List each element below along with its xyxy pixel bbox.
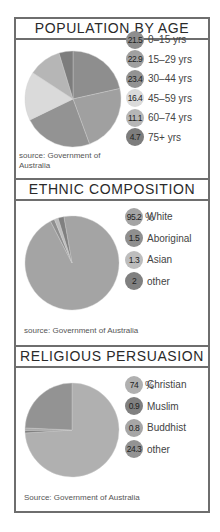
legend-value-badge: 22.9 <box>126 50 144 68</box>
religion-source: Source: Government of Australia <box>24 493 140 503</box>
legend-item: 1.5Aboriginal <box>125 229 191 248</box>
infographic-frame: POPULATION BY AGE % 21.50–15 yrs22.915–2… <box>14 17 210 513</box>
legend-value-badge: 11.1 <box>126 109 144 127</box>
legend-label: 75+ yrs <box>148 132 181 143</box>
legend-item: 24.3other <box>125 440 170 459</box>
legend-label: Christian <box>147 379 186 390</box>
legend-item: 0.8Buddhist <box>125 418 186 437</box>
religious-persuasion-title: RELIGIOUS PERSUASION <box>16 347 208 368</box>
legend-item: 22.915–29 yrs <box>126 50 192 69</box>
legend-value-badge: 24.3 <box>125 440 143 458</box>
legend-value-badge: 1.3 <box>125 251 143 269</box>
legend-label: other <box>147 276 170 287</box>
ethnic-composition-title: ETHNIC COMPOSITION <box>16 180 208 201</box>
pie-slice <box>25 383 72 430</box>
legend-item: 1.3Asian <box>125 250 172 269</box>
legend-value-badge: 21.5 <box>126 31 144 49</box>
legend-label: other <box>147 444 170 455</box>
legend-value-badge: 4.7 <box>126 128 144 146</box>
legend-label: 30–44 yrs <box>148 73 192 84</box>
legend-label: Aboriginal <box>147 233 191 244</box>
legend-item: 2other <box>125 272 170 291</box>
population-pie-chart <box>24 50 122 148</box>
legend-label: Muslim <box>147 401 179 412</box>
legend-value-badge: 95.2 <box>125 208 143 226</box>
legend-item: 74Christian <box>125 375 186 394</box>
legend-item: 21.50–15 yrs <box>126 30 186 49</box>
legend-item: 95.2White <box>125 207 173 226</box>
legend-item: 11.160–74 yrs <box>126 108 192 127</box>
population-source: source: Government of Australia <box>19 151 100 171</box>
legend-value-badge: 1.5 <box>125 229 143 247</box>
legend-label: 15–29 yrs <box>148 54 192 65</box>
legend-label: Asian <box>147 254 172 265</box>
legend-value-badge: 74 <box>125 376 143 394</box>
legend-value-badge: 16.4 <box>126 89 144 107</box>
religion-pie-chart <box>24 382 120 478</box>
legend-label: 0–15 yrs <box>148 34 186 45</box>
legend-value-badge: 23.4 <box>126 70 144 88</box>
legend-label: 60–74 yrs <box>148 112 192 123</box>
source-line-1: source: Government of <box>19 151 100 161</box>
legend-label: White <box>147 211 173 222</box>
ethnic-pie-chart <box>24 215 120 311</box>
legend-item: 0.9Muslim <box>125 397 179 416</box>
legend-label: 45–59 yrs <box>148 93 192 104</box>
legend-item: 16.445–59 yrs <box>126 89 192 108</box>
legend-value-badge: 0.9 <box>125 397 143 415</box>
source-line-2: Australia <box>19 161 100 171</box>
ethnic-source: source: Government of Australia <box>24 326 138 336</box>
legend-value-badge: 0.8 <box>125 419 143 437</box>
legend-label: Buddhist <box>147 422 186 433</box>
legend-value-badge: 2 <box>125 272 143 290</box>
legend-item: 23.430–44 yrs <box>126 69 192 88</box>
legend-item: 4.775+ yrs <box>126 128 181 147</box>
